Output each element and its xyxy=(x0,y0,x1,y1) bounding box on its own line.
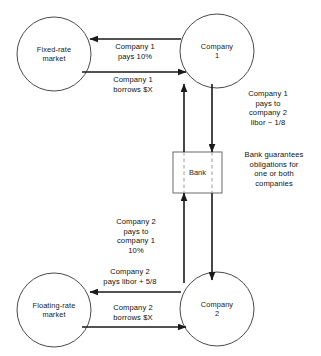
edge-label-company2-pays-to-company1-line3: company 1 xyxy=(96,236,176,246)
edge-label-company1-pays-to-company2: Company 1 pays to company 2 libor − 1/8 xyxy=(228,89,308,127)
node-bank-shape xyxy=(173,152,222,193)
swap-flow-diagram: Fixed-rate market Company 1 Bank Floatin… xyxy=(0,0,321,356)
edge-label-bank-guarantee: Bank guarantees obligations for one or b… xyxy=(229,150,319,188)
edge-label-company2-pays-to-company1-line1: Company 2 xyxy=(96,217,176,227)
edge-label-company2-pays-to-company1: Company 2 pays to company 1 10% xyxy=(96,217,176,255)
edge-label-company1-pays-fixed-line2: pays 10% xyxy=(90,52,180,62)
edge-label-company1-borrows: Company 1 borrows $X xyxy=(88,75,178,94)
edge-label-company2-pays-to-company1-line4: 10% xyxy=(96,246,176,256)
edge-label-company1-pays-to-company2-line1: Company 1 xyxy=(228,89,308,99)
node-company-1-shape xyxy=(180,14,254,88)
edge-label-bank-guarantee-line4: companies xyxy=(229,179,319,189)
edge-label-company2-pays-to-company1-line2: pays to xyxy=(96,227,176,237)
edge-label-company1-pays-fixed: Company 1 pays 10% xyxy=(90,42,180,61)
edge-label-company2-pays-floating-line1: Company 2 xyxy=(80,267,180,277)
edge-label-company1-pays-to-company2-line3: company 2 xyxy=(228,108,308,118)
edge-label-bank-guarantee-line2: obligations for xyxy=(229,160,319,170)
edge-label-bank-guarantee-line3: one or both xyxy=(229,169,319,179)
edge-label-company1-pays-to-company2-line4: libor − 1/8 xyxy=(228,118,308,128)
edge-label-company1-pays-fixed-line1: Company 1 xyxy=(90,42,180,52)
edge-label-company2-pays-floating-line2: pays libor + 5/8 xyxy=(80,277,180,287)
edge-label-company2-borrows-line1: Company 2 xyxy=(88,303,178,313)
edge-label-bank-guarantee-line1: Bank guarantees xyxy=(229,150,319,160)
edge-label-company2-pays-floating: Company 2 pays libor + 5/8 xyxy=(80,267,180,286)
node-fixed-rate-market-shape xyxy=(17,17,91,91)
edge-label-company1-borrows-line2: borrows $X xyxy=(88,85,178,95)
node-company-2-shape xyxy=(180,272,254,346)
edge-label-company2-borrows: Company 2 borrows $X xyxy=(88,303,178,322)
edge-label-company2-borrows-line2: borrows $X xyxy=(88,313,178,323)
edge-label-company1-borrows-line1: Company 1 xyxy=(88,75,178,85)
edge-label-company1-pays-to-company2-line2: pays to xyxy=(228,99,308,109)
